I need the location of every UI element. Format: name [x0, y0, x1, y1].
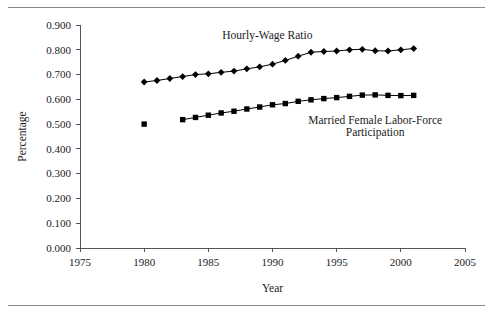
data-point-diamond	[166, 75, 173, 82]
x-tick-label: 1995	[326, 256, 349, 268]
data-point-diamond	[243, 65, 250, 72]
figure-page: 0.0000.1000.2000.3000.4000.5000.6000.700…	[0, 0, 493, 319]
data-point-diamond	[372, 47, 379, 54]
data-point-diamond	[154, 77, 161, 84]
y-tick-label: 0.900	[46, 19, 71, 31]
data-point-diamond	[346, 46, 353, 53]
data-point-square	[334, 95, 339, 100]
y-tick-label: 0.400	[46, 143, 71, 155]
data-point-square	[372, 92, 377, 97]
data-point-diamond	[192, 71, 199, 78]
x-tick-label: 2000	[390, 256, 413, 268]
data-point-square	[218, 110, 223, 115]
data-point-square	[360, 92, 365, 97]
data-point-square	[398, 93, 403, 98]
y-tick-label: 0.200	[46, 192, 71, 204]
chart-axes	[80, 25, 465, 248]
data-point-square	[206, 112, 211, 117]
data-point-square	[180, 117, 185, 122]
data-point-square	[411, 93, 416, 98]
y-tick-label: 0.100	[46, 217, 71, 229]
series-annotation: Married Female Labor-Force	[308, 114, 442, 126]
x-tick-label: 1985	[197, 256, 220, 268]
y-tick-label: 0.700	[46, 68, 71, 80]
data-point-diamond	[218, 69, 225, 76]
y-tick-label: 0.500	[46, 118, 71, 130]
data-point-square	[193, 115, 198, 120]
data-point-square	[141, 121, 146, 126]
data-point-diamond	[179, 73, 186, 80]
data-point-square	[385, 93, 390, 98]
data-point-diamond	[295, 53, 302, 60]
chart-figure: 0.0000.1000.2000.3000.4000.5000.6000.700…	[0, 12, 493, 302]
data-point-square	[347, 94, 352, 99]
series-annotations: Hourly-Wage RatioMarried Female Labor-Fo…	[222, 29, 442, 139]
data-point-diamond	[410, 45, 417, 52]
data-point-diamond	[397, 46, 404, 53]
y-axis-title: Percentage	[16, 111, 29, 161]
data-point-square	[295, 99, 300, 104]
data-point-diamond	[269, 61, 276, 68]
data-point-square	[231, 109, 236, 114]
data-point-square	[257, 104, 262, 109]
series-married-female-lfp-isolated	[141, 121, 146, 126]
data-point-diamond	[333, 48, 340, 55]
data-point-square	[244, 106, 249, 111]
data-point-diamond	[231, 68, 238, 75]
y-tick-label: 0.300	[46, 167, 71, 179]
bottom-horizontal-rule	[8, 305, 485, 306]
x-tick-label: 1990	[262, 256, 285, 268]
data-point-diamond	[256, 63, 263, 70]
x-axis-ticks: 1975198019851990199520002005	[69, 248, 477, 268]
y-tick-label: 0.800	[46, 44, 71, 56]
data-point-square	[283, 101, 288, 106]
line-chart: 0.0000.1000.2000.3000.4000.5000.6000.700…	[0, 12, 493, 302]
series-hourly-wage-ratio	[141, 45, 417, 85]
x-tick-label: 2005	[454, 256, 477, 268]
data-point-square	[308, 97, 313, 102]
data-point-diamond	[385, 48, 392, 55]
x-tick-label: 1980	[133, 256, 156, 268]
data-point-square	[270, 102, 275, 107]
data-point-diamond	[320, 48, 327, 55]
data-point-diamond	[205, 70, 212, 77]
data-point-diamond	[141, 79, 148, 86]
series-annotation: Hourly-Wage Ratio	[222, 29, 312, 42]
y-tick-label: 0.600	[46, 93, 71, 105]
top-horizontal-rule	[8, 7, 485, 8]
data-point-square	[321, 96, 326, 101]
x-tick-label: 1975	[69, 256, 92, 268]
series-annotation: Participation	[346, 126, 405, 139]
y-tick-label: 0.000	[46, 242, 71, 254]
y-axis-ticks: 0.0000.1000.2000.3000.4000.5000.6000.700…	[46, 19, 80, 254]
data-point-diamond	[308, 49, 315, 56]
data-point-diamond	[282, 57, 289, 64]
x-axis-title: Year	[262, 282, 283, 294]
data-point-diamond	[359, 46, 366, 53]
